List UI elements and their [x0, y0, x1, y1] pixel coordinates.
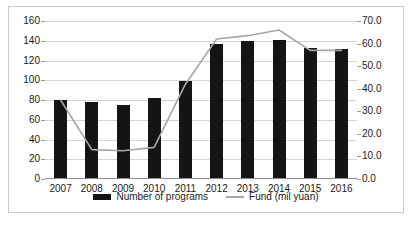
- plot-area: 020406080100120140160 0.010.020.030.040.…: [45, 21, 357, 179]
- chart-container: 020406080100120140160 0.010.020.030.040.…: [8, 6, 404, 213]
- legend-item-fund: Fund (mil yuan): [226, 191, 318, 202]
- bar: [179, 81, 192, 179]
- bar: [335, 49, 348, 179]
- y-axis-right-tick-label: 70.0: [362, 16, 402, 26]
- bar: [304, 48, 317, 179]
- gridline: [45, 21, 357, 22]
- y-axis-left-tick-label: 0: [0, 174, 40, 184]
- bar-swatch-icon: [93, 194, 111, 200]
- y-axis-left-tick-label: 20: [0, 154, 40, 164]
- y-axis-left-tick-label: 80: [0, 95, 40, 105]
- bar: [54, 100, 67, 179]
- y-axis-left-tick-mark: [41, 80, 45, 81]
- y-axis-left-tick-label: 140: [0, 36, 40, 46]
- y-axis-left-tick-label: 60: [0, 115, 40, 125]
- y-axis-right-tick-mark: [357, 134, 361, 135]
- y-axis-right-tick-mark: [357, 66, 361, 67]
- y-axis-left-tick-label: 120: [0, 56, 40, 66]
- y-axis-left-tick-label: 100: [0, 75, 40, 85]
- bar: [210, 44, 223, 179]
- y-axis-right-tick-label: 10.0: [362, 151, 402, 161]
- y-axis-right-tick-label: 30.0: [362, 106, 402, 116]
- y-axis-right-tick-mark: [357, 89, 361, 90]
- bar: [85, 102, 98, 179]
- bar: [117, 105, 130, 179]
- y-axis-left-tick-mark: [41, 41, 45, 42]
- y-axis-right-tick-mark: [357, 179, 361, 180]
- bar: [148, 98, 161, 179]
- y-axis-right-tick-label: 60.0: [362, 39, 402, 49]
- y-axis-right-tick-label: 40.0: [362, 84, 402, 94]
- y-axis-left-tick-mark: [41, 140, 45, 141]
- bar: [273, 40, 286, 179]
- y-axis-left-tick-mark: [41, 61, 45, 62]
- y-axis-right-tick-label: 20.0: [362, 129, 402, 139]
- y-axis-left-tick-label: 160: [0, 16, 40, 26]
- x-axis-line: [45, 178, 357, 179]
- y-axis-right-tick-mark: [357, 111, 361, 112]
- y-axis-left-tick-mark: [41, 179, 45, 180]
- y-axis-right-tick-mark: [357, 44, 361, 45]
- y-axis-left-tick-mark: [41, 120, 45, 121]
- legend-item-number-of-programs: Number of programs: [93, 191, 208, 202]
- bar: [241, 41, 254, 179]
- y-axis-left-tick-label: 40: [0, 135, 40, 145]
- gridline: [45, 41, 357, 42]
- y-axis-right-tick-label: 50.0: [362, 61, 402, 71]
- y-axis-left-tick-mark: [41, 100, 45, 101]
- legend-label-fund: Fund (mil yuan): [249, 191, 318, 202]
- y-axis-left-tick-mark: [41, 159, 45, 160]
- y-axis-right-tick-mark: [357, 156, 361, 157]
- y-axis-left-tick-mark: [41, 21, 45, 22]
- y-axis-right-tick-label: 0.0: [362, 174, 402, 184]
- chart-legend: Number of programs Fund (mil yuan): [9, 191, 403, 202]
- y-axis-right-tick-mark: [357, 21, 361, 22]
- legend-label-number-of-programs: Number of programs: [116, 191, 208, 202]
- line-swatch-icon: [226, 196, 244, 198]
